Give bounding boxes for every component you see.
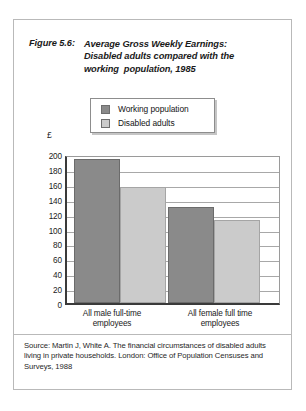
source-divider: [13, 334, 292, 335]
y-axis-tick-labels: 020406080100120140160180200: [33, 156, 62, 305]
y-axis-tick-label: 160: [36, 181, 62, 190]
figure-number: Figure 5.6:: [29, 38, 75, 48]
y-axis-tick-label: 20: [36, 286, 62, 295]
x-axis-category-label-line: All female full time: [166, 309, 274, 319]
title-line-2: Disabled adults compared with the: [84, 50, 234, 62]
x-axis-category-label-male: All male full-timeemployees: [58, 309, 166, 329]
bar-working-population: [168, 207, 214, 303]
source-note: Source: Martin J, White A. The financial…: [24, 341, 282, 372]
legend-item-disabled-adults: Disabled adults: [101, 117, 175, 129]
figure-page: Figure 5.6: Average Gross Weekly Earning…: [0, 0, 306, 411]
y-axis-tick-label: 60: [36, 256, 62, 265]
chart-legend: Working population Disabled adults: [90, 98, 215, 133]
x-axis-category-label-female: All female full timeemployees: [166, 309, 274, 329]
bar-disabled-adults: [214, 220, 260, 303]
title-line-1: Average Gross Weekly Earnings:: [84, 38, 234, 50]
bar-disabled-adults: [120, 187, 166, 303]
chart-plot-area: [65, 156, 280, 305]
x-axis-category-label-line: employees: [166, 319, 274, 329]
y-axis-unit-label: £: [47, 130, 52, 140]
legend-item-working-population: Working population: [101, 103, 189, 115]
y-axis-tick-label: 40: [36, 271, 62, 280]
legend-swatch-working-population: [101, 105, 110, 114]
legend-label-disabled-adults: Disabled adults: [118, 118, 175, 128]
x-axis-category-label-line: employees: [58, 319, 166, 329]
y-axis-tick-label: 200: [36, 152, 62, 161]
y-axis-tick-label: 120: [36, 211, 62, 220]
legend-label-working-population: Working population: [118, 104, 189, 114]
bar-working-population: [74, 159, 120, 303]
y-axis-tick-label: 180: [36, 166, 62, 175]
figure-title-block: Figure 5.6: Average Gross Weekly Earning…: [29, 38, 279, 75]
y-axis-tick-label: 140: [36, 196, 62, 205]
x-axis-category-label-line: All male full-time: [58, 309, 166, 319]
page-title: Average Gross Weekly Earnings: Disabled …: [84, 38, 234, 75]
legend-swatch-disabled-adults: [101, 119, 110, 128]
y-axis-tick-label: 80: [36, 241, 62, 250]
title-line-3: working population, 1985: [84, 63, 234, 75]
y-axis-tick-label: 100: [36, 226, 62, 235]
